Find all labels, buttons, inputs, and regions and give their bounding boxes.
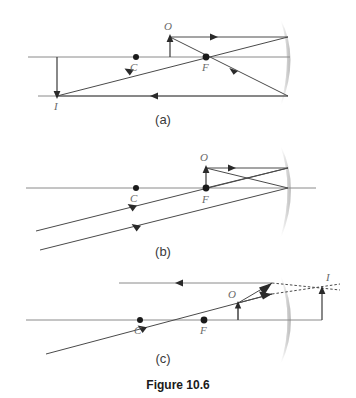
optics-ray-diagram: O I C F (a) (0, 0, 356, 398)
label-object-b: O (200, 151, 208, 163)
label-center-b: C (130, 192, 138, 204)
label-focus-a: F (201, 61, 209, 73)
label-object-a: O (164, 20, 172, 32)
focal-point-dot-b (203, 185, 210, 192)
center-of-curvature-dot-b (133, 185, 139, 191)
label-object-c: O (228, 288, 236, 300)
ray-reflected-lower2-b (40, 188, 288, 250)
label-center-c: C (134, 324, 142, 336)
center-of-curvature-dot-a (133, 54, 139, 60)
figure-container: O I C F (a) (0, 0, 356, 398)
panel-c: O I C F (c) (26, 271, 340, 366)
figure-caption: Figure 10.6 (146, 378, 210, 392)
label-image-a: I (53, 100, 59, 112)
focal-point-dot-a (203, 54, 210, 61)
virtual-ray-upper-c (272, 283, 340, 290)
center-of-curvature-dot-c (137, 317, 143, 323)
panel-b: O C F (b) (26, 145, 316, 259)
image-arrowhead-c (319, 286, 326, 294)
arrowhead-horizontal-upper-c (175, 280, 183, 287)
label-center-a: C (130, 61, 138, 73)
panel-label-b: (b) (155, 244, 171, 259)
label-focus-c: F (199, 324, 207, 336)
panel-label-a: (a) (155, 112, 171, 127)
focal-point-dot-c (201, 317, 208, 324)
ray-through-focus-incident-a (170, 37, 288, 96)
arrowhead-parallel-a (210, 34, 218, 41)
panel-a: O I C F (a) (28, 19, 291, 127)
arrowhead-parallel-b (228, 165, 236, 172)
ray-reflected-through-f-a (57, 37, 288, 96)
panel-label-c: (c) (155, 351, 170, 366)
virtual-ray-lower-c (272, 284, 340, 294)
label-image-c: I (325, 271, 331, 283)
arrowhead-reflected-parallel-a (150, 93, 158, 100)
label-focus-b: F (201, 193, 209, 205)
